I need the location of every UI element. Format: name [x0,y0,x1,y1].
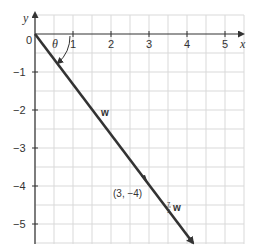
x-tick-label: 5 [222,38,228,50]
angle-arc [58,36,70,63]
scaled-vector-label: 7 5 w [166,201,181,214]
grid [35,15,244,244]
origin-label: 0 [26,34,32,46]
y-tick-label: −1 [13,66,26,78]
y-tick-label: −2 [13,104,26,116]
y-axis-label: y [22,11,29,25]
vector-w-label: w [100,107,109,118]
y-tick-label: −5 [13,218,26,230]
point-label: (3, −4) [113,188,142,199]
svg-text:w: w [172,202,181,213]
x-tick-label: 1 [70,38,76,50]
svg-text:7: 7 [167,201,171,207]
vector-w-arrowhead [141,175,149,186]
x-tick-label: 3 [146,38,152,50]
coordinate-plane: x y 0 1 2 3 4 5 −1 −2 −3 −4 −5 θ w (3, −… [0,0,257,251]
x-tick-label: 2 [108,38,114,50]
x-tick-label: 4 [184,38,190,50]
theta-label: θ [52,37,58,51]
y-tick-label: −3 [13,142,26,154]
x-axis-label: x [239,37,246,51]
y-tick-label: −4 [13,180,26,192]
